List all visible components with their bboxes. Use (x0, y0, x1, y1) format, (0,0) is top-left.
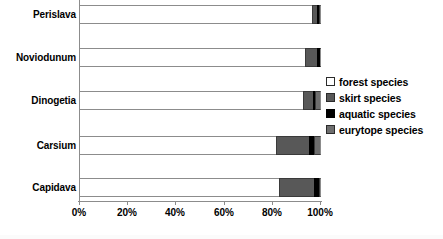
aquatic-swatch-icon (326, 109, 335, 118)
segment-eurytope-species (319, 178, 321, 197)
forest-swatch-icon (326, 77, 335, 86)
legend-item-aquatic-species: aquatic species (326, 106, 442, 121)
legend-item-forest-species: forest species (326, 74, 442, 89)
legend-label-skirt-species: skirt species (339, 92, 401, 104)
scan-edge-artifact (0, 235, 443, 239)
y-axis-label-perislava: Perislava (2, 9, 76, 20)
stacked-bar-chart: Perislava Noviodunum Dinogetia Carsium C… (0, 0, 443, 239)
plot-area (79, 0, 321, 205)
segment-eurytope-species (315, 91, 321, 110)
legend-label-aquatic-species: aquatic species (339, 108, 416, 120)
chart-legend: forest species skirt species aquatic spe… (326, 74, 442, 138)
skirt-swatch-icon (326, 93, 335, 102)
bar-row-capidava (79, 178, 321, 197)
bar-row-carsium (79, 136, 321, 155)
segment-forest-species (79, 91, 303, 110)
x-axis-tick-labels: 0% 20% 40% 60% 80% 100% (79, 207, 321, 223)
segment-forest-species (79, 5, 312, 24)
stacked-bar-noviodunum (79, 48, 321, 67)
x-axis-label-40: 40% (165, 207, 185, 219)
segment-skirt-species (276, 136, 309, 155)
x-axis-label-0: 0% (72, 207, 86, 219)
segment-skirt-species (305, 48, 317, 67)
legend-label-eurytope-species: eurytope species (339, 124, 423, 136)
segment-eurytope-species (314, 136, 321, 155)
eurytope-swatch-icon (326, 125, 335, 134)
x-axis-label-100: 100% (307, 207, 333, 219)
bar-row-perislava (79, 5, 321, 24)
segment-eurytope-species (319, 5, 321, 24)
segment-forest-species (79, 136, 276, 155)
x-axis-label-80: 80% (262, 207, 282, 219)
x-tick-100 (320, 202, 321, 205)
bar-row-noviodunum (79, 48, 321, 67)
stacked-bar-carsium (79, 136, 321, 155)
bar-row-dinogetia (79, 91, 321, 110)
y-axis-label-carsium: Carsium (2, 140, 76, 151)
stacked-bar-perislava (79, 5, 321, 24)
x-tick-20 (127, 202, 128, 205)
segment-skirt-species (279, 178, 314, 197)
stacked-bar-dinogetia (79, 91, 321, 110)
x-tick-60 (224, 202, 225, 205)
x-axis-label-60: 60% (214, 207, 234, 219)
x-tick-80 (272, 202, 273, 205)
y-axis-category-labels: Perislava Noviodunum Dinogetia Carsium C… (0, 0, 76, 205)
segment-skirt-species (303, 91, 313, 110)
y-axis-label-dinogetia: Dinogetia (2, 95, 76, 106)
legend-label-forest-species: forest species (339, 76, 408, 88)
y-axis-label-capidava: Capidava (2, 182, 76, 193)
x-axis-label-20: 20% (117, 207, 137, 219)
x-tick-40 (175, 202, 176, 205)
segment-forest-species (79, 178, 279, 197)
segment-aquatic-species (317, 48, 321, 67)
legend-item-eurytope-species: eurytope species (326, 122, 442, 137)
y-axis-label-noviodunum: Noviodunum (2, 52, 76, 63)
stacked-bar-capidava (79, 178, 321, 197)
x-tick-0 (79, 202, 80, 205)
x-axis-line (78, 201, 322, 202)
segment-forest-species (79, 48, 305, 67)
legend-item-skirt-species: skirt species (326, 90, 442, 105)
